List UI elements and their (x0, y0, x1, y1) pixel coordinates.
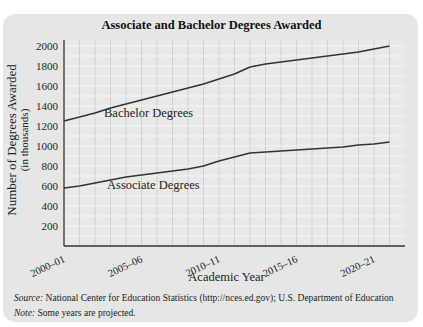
note-text: Some years are projected. (35, 308, 136, 318)
y-tick-label: 1600 (36, 80, 59, 92)
y-tick-label: 400 (42, 200, 59, 212)
source-line: Source: National Center for Education St… (14, 293, 394, 303)
grid (64, 40, 405, 246)
x-tick-label: 2000–01 (29, 253, 67, 279)
y-axis-title: Number of Degrees Awarded (5, 64, 18, 216)
y-tick-label: 200 (42, 220, 59, 232)
source-text: National Center for Education Statistics… (43, 293, 393, 303)
y-tick-label: 2000 (36, 40, 59, 52)
series-annotation: Bachelor Degrees (104, 106, 193, 120)
y-axis-subtitle: (in thousands) (18, 64, 31, 216)
x-axis-label: Academic Year (64, 270, 389, 285)
y-tick-label: 1000 (36, 140, 59, 152)
series-annotation: Associate Degrees (107, 178, 200, 192)
y-tick-label: 800 (42, 160, 59, 172)
note-label: Note: (14, 308, 35, 318)
y-tick-label: 1200 (36, 120, 59, 132)
y-tick-label: 600 (42, 180, 59, 192)
y-tick-label: 1800 (36, 60, 59, 72)
y-tick-label: 1400 (36, 100, 59, 112)
y-axis-label: Number of Degrees Awarded (in thousands) (5, 64, 31, 216)
note-line: Note: Some years are projected. (14, 308, 136, 318)
source-label: Source: (14, 293, 43, 303)
y-axis-ticks: 200400600800100012001400160018002000 (36, 40, 59, 232)
